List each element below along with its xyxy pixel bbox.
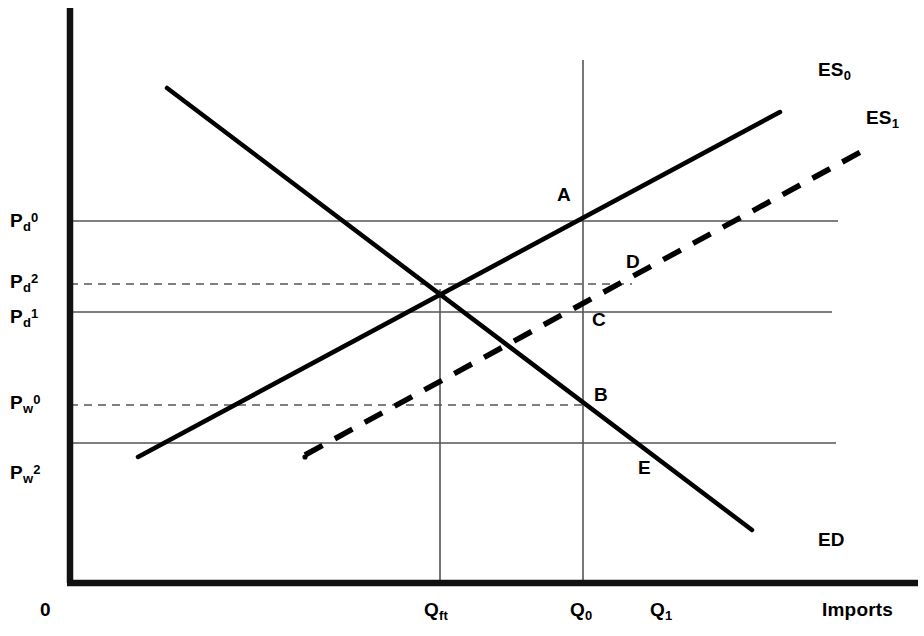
- curves: [138, 88, 868, 530]
- axis-label-pw0-sub: w: [23, 401, 33, 416]
- curve-label-es0-sub: 0: [844, 68, 851, 83]
- axis-label-q1-base: Q: [650, 599, 665, 620]
- axis-label-pd0-sub: d: [23, 219, 31, 234]
- axis-label-pw2-base: P: [10, 462, 23, 483]
- point-label-c: C: [592, 310, 606, 329]
- axis-label-qft: Qft: [424, 600, 448, 622]
- axis-label-pd0-sup: 0: [31, 210, 38, 225]
- axis-label-pd2-sup: 2: [31, 271, 38, 286]
- axis-label-pw2-sup: 2: [33, 462, 40, 477]
- axis-label-pd1: Pd1: [10, 307, 38, 329]
- axes: [67, 8, 918, 583]
- axis-label-origin: 0: [40, 600, 51, 619]
- curve-label-ed: ED: [818, 530, 845, 549]
- axis-label-pw0: Pw0: [10, 393, 41, 415]
- plot-canvas: [0, 0, 924, 636]
- curve-es1: [305, 148, 868, 455]
- curve-label-es0-base: ES: [818, 59, 844, 80]
- axis-label-pd1-base: P: [10, 306, 23, 327]
- axis-label-q1-sub: 1: [665, 608, 672, 623]
- axis-label-pd2: Pd2: [10, 272, 38, 294]
- curve-label-es1-sub: 1: [892, 116, 899, 131]
- point-label-e: E: [638, 458, 651, 477]
- curve-es0: [138, 112, 780, 457]
- axis-label-q0: Q0: [570, 600, 592, 622]
- curve-ed: [167, 88, 752, 530]
- axis-label-q0-sub: 0: [585, 608, 592, 623]
- curve-label-es1: ES1: [866, 108, 899, 130]
- axis-label-pw0-base: P: [10, 392, 23, 413]
- point-label-a: A: [557, 185, 571, 204]
- axis-label-q0-base: Q: [570, 599, 585, 620]
- axis-label-pd1-sup: 1: [31, 306, 38, 321]
- point-label-d: D: [626, 252, 640, 271]
- reference-lines: [70, 60, 838, 583]
- axis-label-pd0: Pd0: [10, 211, 38, 233]
- axis-label-pd2-base: P: [10, 271, 23, 292]
- axis-label-pd0-base: P: [10, 210, 23, 231]
- axis-label-pw2-sub: w: [23, 471, 33, 486]
- axis-title-imports: Imports: [822, 600, 893, 619]
- economics-diagram: Pd0 Pd2 Pd1 Pw0 Pw2 0 Qft Q0 Q1 Imports …: [0, 0, 924, 636]
- axis-label-pd2-sub: d: [23, 280, 31, 295]
- axis-label-qft-sub: ft: [439, 608, 448, 623]
- point-label-b: B: [594, 385, 608, 404]
- axis-label-pw2: Pw2: [10, 463, 41, 485]
- curve-label-es1-base: ES: [866, 107, 892, 128]
- axis-label-pd1-sub: d: [23, 315, 31, 330]
- curve-label-es0: ES0: [818, 60, 851, 82]
- axis-label-qft-base: Q: [424, 599, 439, 620]
- curve-es1-start-dot: [302, 454, 307, 459]
- axis-label-q1: Q1: [650, 600, 672, 622]
- axis-label-pw0-sup: 0: [33, 392, 40, 407]
